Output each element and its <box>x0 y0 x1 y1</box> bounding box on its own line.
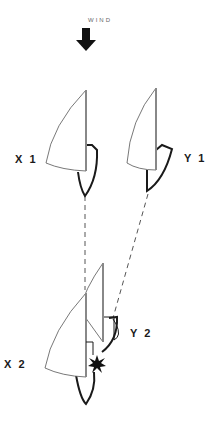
boat-x1 <box>46 90 97 196</box>
boat-y1 <box>127 88 172 191</box>
boat-x2 <box>45 293 94 404</box>
down-arrow-icon <box>76 28 96 51</box>
star-burst-icon <box>88 355 106 373</box>
diagram-canvas <box>0 0 214 424</box>
